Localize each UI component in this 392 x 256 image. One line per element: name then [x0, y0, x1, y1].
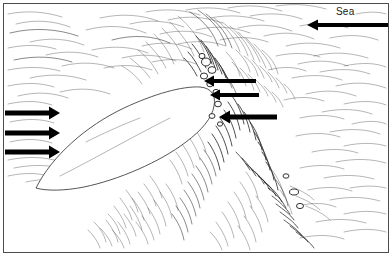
- coastal-spit-figure: Sea: [0, 0, 392, 256]
- wave-arrow-bottom: [219, 111, 277, 124]
- sea-label: Sea: [336, 6, 354, 17]
- drift-arrow-bottom: [5, 146, 60, 159]
- figure-canvas: [0, 0, 392, 256]
- drift-arrow-middle: [5, 127, 60, 140]
- sea-direction-arrow: [307, 20, 388, 31]
- drift-arrow-top: [5, 107, 60, 120]
